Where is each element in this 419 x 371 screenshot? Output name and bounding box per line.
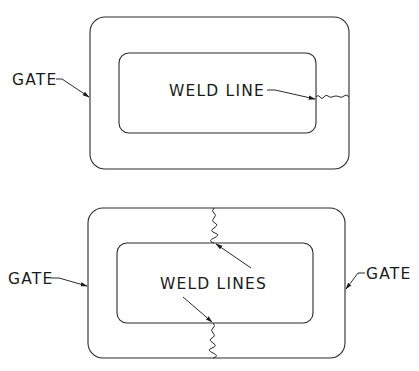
- weld-line-squiggle: [316, 95, 349, 99]
- gate-label-right: GATE: [366, 265, 411, 283]
- weld-line-leader: [267, 90, 315, 99]
- weld-lines-leader-lower: [183, 297, 212, 322]
- weld-line-label: WELD LINE: [169, 82, 265, 100]
- gate-leader-left: [56, 79, 89, 97]
- gate-label-left: GATE: [12, 71, 57, 89]
- gate-leader-left: [51, 278, 87, 286]
- figure-single-gate: GATE WELD LINE: [12, 17, 349, 169]
- figure-double-gate: GATE GATE WELD LINES: [8, 208, 411, 358]
- gate-leader-right: [346, 273, 365, 289]
- gate-label-left: GATE: [8, 270, 53, 288]
- weld-line-squiggle-lower: [209, 323, 216, 358]
- weld-line-diagram: GATE WELD LINE GATE GATE WELD LINES: [0, 0, 419, 371]
- weld-lines-leader-upper: [216, 244, 251, 268]
- weld-lines-label: WELD LINES: [160, 275, 267, 293]
- weld-line-squiggle-upper: [211, 208, 218, 243]
